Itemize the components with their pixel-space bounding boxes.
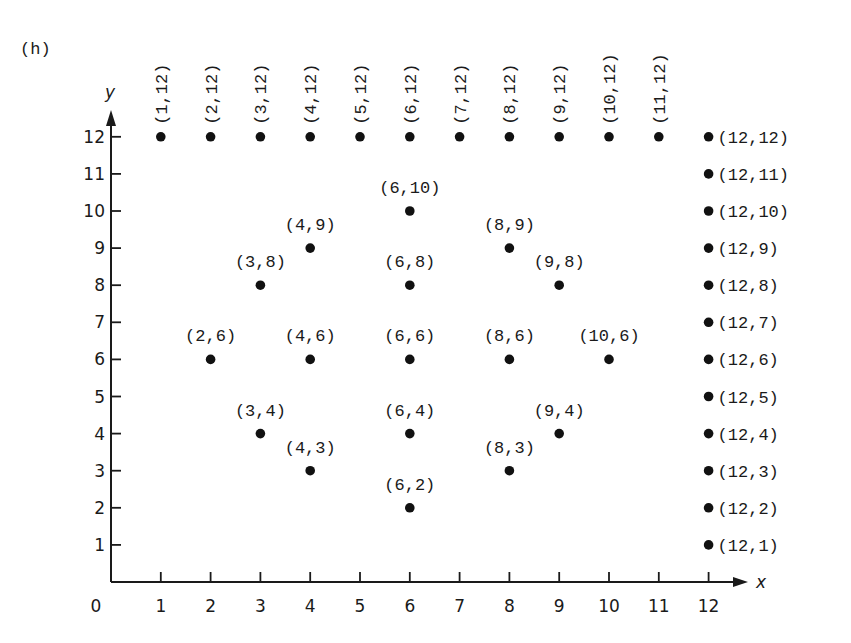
data-point: (2,12): [203, 64, 222, 142]
point-label: (10,12): [601, 53, 620, 124]
data-point: (6,8): [384, 253, 435, 290]
point-label: (4,12): [302, 64, 321, 125]
data-point: (9,4): [534, 402, 585, 439]
data-point: (1,12): [153, 64, 172, 142]
data-point: (2,6): [185, 327, 236, 364]
y-tick-label: 11: [83, 164, 105, 184]
data-point: (10,12): [601, 53, 620, 141]
point-marker-icon: [405, 280, 415, 290]
origin-label: 0: [91, 596, 102, 616]
point-label: (12,8): [718, 277, 779, 296]
point-label: (6,10): [379, 179, 440, 198]
point-label: (6,8): [384, 253, 435, 272]
axes: xy0123456789101112123456789101112: [83, 82, 767, 616]
point-label: (4,3): [285, 439, 336, 458]
point-label: (2,6): [185, 327, 236, 346]
data-point: (8,3): [484, 439, 535, 476]
point-label: (8,9): [484, 216, 535, 235]
data-point: (12,7): [704, 314, 779, 333]
data-point: (12,10): [704, 203, 789, 222]
y-tick-label: 9: [94, 238, 105, 258]
y-axis-label: y: [104, 82, 116, 102]
data-point: (12,12): [704, 129, 789, 148]
point-marker-icon: [405, 132, 415, 142]
point-marker-icon: [704, 392, 714, 402]
point-label: (3,4): [235, 402, 286, 421]
data-point: (3,4): [235, 402, 286, 439]
point-marker-icon: [455, 132, 465, 142]
data-points: (1,12)(2,12)(3,12)(4,12)(5,12)(6,12)(7,1…: [153, 53, 789, 556]
data-point: (9,8): [534, 253, 585, 290]
point-marker-icon: [256, 280, 266, 290]
point-label: (4,6): [285, 327, 336, 346]
point-label: (1,12): [153, 64, 172, 125]
point-label: (9,12): [551, 64, 570, 125]
y-tick-label: 8: [94, 275, 105, 295]
point-marker-icon: [305, 132, 315, 142]
point-label: (4,9): [285, 216, 336, 235]
data-point: (3,8): [235, 253, 286, 290]
point-label: (9,8): [534, 253, 585, 272]
point-marker-icon: [156, 132, 166, 142]
x-tick-label: 4: [305, 596, 316, 616]
data-point: (12,3): [704, 463, 779, 482]
point-marker-icon: [505, 466, 515, 476]
point-marker-icon: [206, 355, 216, 365]
point-marker-icon: [305, 243, 315, 253]
data-point: (10,6): [578, 327, 639, 364]
point-marker-icon: [505, 132, 515, 142]
y-axis-arrow-icon: [106, 110, 116, 126]
point-marker-icon: [305, 355, 315, 365]
data-point: (4,6): [285, 327, 336, 364]
data-point: (12,1): [704, 537, 779, 556]
x-tick-label: 3: [255, 596, 266, 616]
point-marker-icon: [704, 429, 714, 439]
data-point: (12,2): [704, 500, 779, 519]
data-point: (4,12): [302, 64, 321, 142]
point-label: (8,3): [484, 439, 535, 458]
point-marker-icon: [704, 132, 714, 142]
scatter-chart: (h) xy0123456789101112123456789101112 (1…: [0, 0, 851, 643]
point-marker-icon: [554, 429, 564, 439]
point-label: (8,6): [484, 327, 535, 346]
point-marker-icon: [554, 280, 564, 290]
point-marker-icon: [405, 429, 415, 439]
x-tick-label: 11: [648, 596, 670, 616]
point-marker-icon: [704, 355, 714, 365]
x-tick-label: 12: [698, 596, 720, 616]
point-label: (9,4): [534, 402, 585, 421]
y-tick-label: 2: [94, 498, 105, 518]
point-marker-icon: [704, 318, 714, 328]
data-point: (12,5): [704, 389, 779, 408]
x-tick-label: 9: [554, 596, 565, 616]
data-point: (8,9): [484, 216, 535, 253]
point-marker-icon: [704, 243, 714, 253]
data-point: (12,4): [704, 426, 779, 445]
data-point: (6,6): [384, 327, 435, 364]
data-point: (6,12): [402, 64, 421, 142]
data-point: (4,3): [285, 439, 336, 476]
point-marker-icon: [654, 132, 664, 142]
x-tick-label: 2: [205, 596, 216, 616]
point-marker-icon: [355, 132, 365, 142]
x-tick-label: 6: [404, 596, 415, 616]
point-marker-icon: [405, 355, 415, 365]
x-tick-label: 5: [355, 596, 366, 616]
point-marker-icon: [256, 429, 266, 439]
data-point: (5,12): [352, 64, 371, 142]
data-point: (3,12): [252, 64, 271, 142]
point-label: (5,12): [352, 64, 371, 125]
point-label: (12,1): [718, 537, 779, 556]
y-tick-label: 6: [94, 349, 105, 369]
data-point: (8,6): [484, 327, 535, 364]
point-label: (12,6): [718, 351, 779, 370]
data-point: (4,9): [285, 216, 336, 253]
y-tick-label: 10: [83, 201, 105, 221]
point-label: (11,12): [651, 53, 670, 124]
y-tick-label: 12: [83, 127, 105, 147]
point-label: (12,12): [718, 129, 789, 148]
data-point: (6,4): [384, 402, 435, 439]
point-marker-icon: [704, 280, 714, 290]
point-label: (2,12): [203, 64, 222, 125]
data-point: (8,12): [501, 64, 520, 142]
